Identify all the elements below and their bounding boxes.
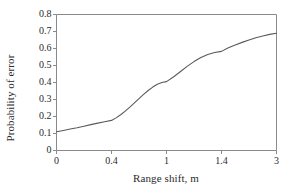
x-tick-label: 0.4 bbox=[97, 155, 127, 166]
y-tick-label: 0.3 bbox=[28, 93, 52, 104]
y-tick-label: 0.1 bbox=[28, 127, 52, 138]
y-axis-title-text: Probability of error bbox=[4, 55, 18, 142]
x-tick-label: 3 bbox=[262, 155, 292, 166]
y-tick-label: 0.2 bbox=[28, 110, 52, 121]
x-tick-label: 1 bbox=[152, 155, 182, 166]
chart-figure: Probability of error Range shift, m 00.4… bbox=[0, 0, 293, 196]
x-axis-title: Range shift, m bbox=[56, 172, 276, 184]
y-tick-label: 0.4 bbox=[28, 76, 52, 87]
y-tick-label: 0.7 bbox=[28, 25, 52, 36]
y-tick-label: 0 bbox=[28, 144, 52, 155]
y-axis-title: Probability of error bbox=[0, 0, 22, 196]
y-tick-label: 0.5 bbox=[28, 59, 52, 70]
y-tick-label: 0.6 bbox=[28, 42, 52, 53]
x-tick-label: 0 bbox=[42, 155, 72, 166]
y-tick-label: 0.8 bbox=[28, 8, 52, 19]
x-tick-label: 1.4 bbox=[207, 155, 237, 166]
